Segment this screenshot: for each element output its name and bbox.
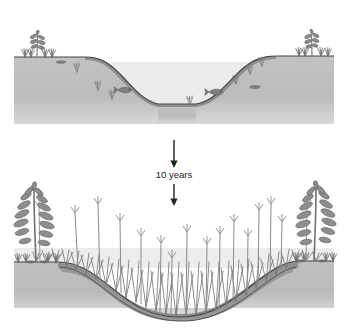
pond-succession-figure: 10 years: [0, 0, 348, 334]
bank-debris: [318, 260, 326, 263]
figure-canvas: 10 years: [0, 0, 348, 334]
bank-debris: [250, 85, 261, 89]
bank-debris: [40, 261, 48, 264]
transition-label: 10 years: [156, 169, 193, 180]
bank-debris: [296, 260, 304, 263]
bank-debris: [27, 261, 35, 264]
bank-debris: [56, 60, 66, 64]
